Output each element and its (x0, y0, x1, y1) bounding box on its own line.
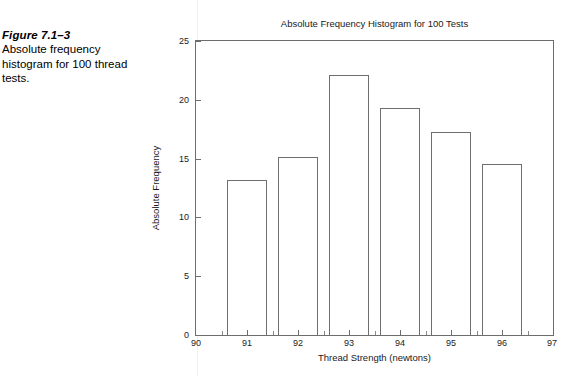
x-tick-mark (502, 330, 503, 335)
x-tick-label: 95 (446, 338, 456, 348)
histogram-bar (482, 164, 523, 335)
plot-area: 05101520259091929394959697 (195, 40, 554, 336)
x-axis-label: Thread Strength (newtons) (195, 352, 554, 363)
y-tick-label: 5 (184, 271, 189, 281)
x-tick-mark (298, 330, 299, 335)
x-tick-label: 92 (293, 338, 303, 348)
x-tick-label: 94 (395, 338, 405, 348)
y-tick-mark (196, 276, 201, 277)
chart-title: Absolute Frequency Histogram for 100 Tes… (195, 18, 554, 29)
x-minor-tick-mark (222, 331, 223, 335)
histogram-bar (278, 157, 319, 335)
y-tick-label: 15 (179, 154, 189, 164)
y-tick-mark (196, 159, 201, 160)
x-minor-tick-mark (273, 331, 274, 335)
histogram-bar (380, 108, 421, 335)
x-tick-label: 96 (497, 338, 507, 348)
x-tick-mark (247, 330, 248, 335)
histogram-bar (329, 75, 370, 335)
y-tick-mark (196, 41, 201, 42)
x-tick-label: 90 (191, 338, 201, 348)
x-tick-mark (349, 330, 350, 335)
x-tick-label: 93 (344, 338, 354, 348)
y-tick-label: 0 (184, 330, 189, 340)
x-minor-tick-mark (477, 331, 478, 335)
histogram-bar (431, 132, 472, 335)
x-minor-tick-mark (528, 331, 529, 335)
y-tick-label: 25 (179, 36, 189, 46)
y-tick-label: 20 (179, 95, 189, 105)
y-tick-mark (196, 100, 201, 101)
y-tick-label: 10 (179, 212, 189, 222)
y-tick-mark (196, 335, 201, 336)
y-tick-mark (196, 217, 201, 218)
histogram-bar (227, 180, 268, 335)
histogram-figure: Absolute Frequency Histogram for 100 Tes… (0, 0, 588, 376)
x-minor-tick-mark (426, 331, 427, 335)
y-axis-label: Absolute Frequency (150, 146, 161, 231)
plot-inner: 05101520259091929394959697 (196, 41, 553, 335)
x-tick-label: 97 (547, 338, 557, 348)
x-minor-tick-mark (324, 331, 325, 335)
x-minor-tick-mark (375, 331, 376, 335)
x-tick-mark (451, 330, 452, 335)
x-tick-label: 91 (242, 338, 252, 348)
x-tick-mark (400, 330, 401, 335)
